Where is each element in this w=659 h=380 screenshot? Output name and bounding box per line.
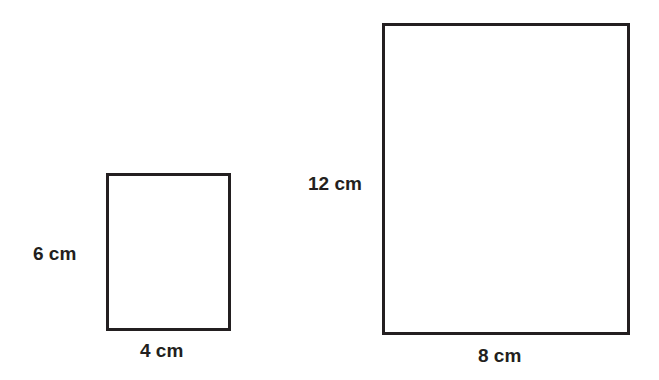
large-rectangle-width-label: 8 cm: [478, 346, 521, 365]
large-rectangle: [382, 23, 630, 335]
large-rectangle-height-label: 12 cm: [308, 174, 362, 193]
small-rectangle-height-label: 6 cm: [33, 244, 76, 263]
small-rectangle-width-label: 4 cm: [140, 341, 183, 360]
small-rectangle: [106, 173, 231, 331]
